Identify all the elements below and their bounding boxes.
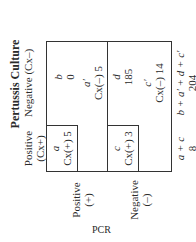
cell-c: c Cx(+) 3 — [110, 125, 134, 172]
cell-b-value: 0 — [64, 52, 76, 102]
row-header-negative-sub: (–) — [140, 172, 152, 228]
cell-a-prime-var: a′ — [80, 41, 92, 125]
cell-c-prime-var: c′ — [141, 41, 153, 125]
cell-d-value: 185 — [122, 52, 134, 102]
cell-a-value: Cx(+) 5 — [61, 125, 73, 172]
total-positive-formula: a + c — [174, 125, 186, 172]
cell-d: d 185 — [110, 52, 134, 102]
row-header-negative-label: Negative — [128, 172, 140, 228]
cell-c-prime-value: Cx(–) 14 — [153, 41, 165, 125]
total-positive-culture: a + c 8 — [174, 125, 196, 172]
column-header-positive-label: Positive — [22, 125, 34, 172]
row-header-positive-label: Positive — [70, 172, 82, 228]
column-header-negative: Negative (Cx–) — [22, 41, 34, 125]
cell-c-var: c — [110, 125, 122, 172]
row-header-positive-sub: (+) — [82, 172, 94, 228]
column-header-positive-sub: (Cx+) — [34, 125, 46, 172]
row-header-positive: Positive (+) — [70, 172, 94, 228]
cell-a-prime-value: Cx(–) 5 — [92, 41, 104, 125]
cell-b-var: b — [52, 52, 64, 102]
table-title: Pertussis Culture — [8, 14, 23, 154]
row-axis-label: PCR — [87, 224, 117, 235]
cell-a-prime: a′ Cx(–) 5 — [80, 41, 104, 125]
row-header-negative: Negative (–) — [128, 172, 152, 228]
cell-d-var: d — [110, 52, 122, 102]
cell-a-var: a — [49, 125, 61, 172]
cell-c-value: Cx(+) 3 — [122, 125, 134, 172]
cell-b: b 0 — [52, 52, 76, 102]
total-negative-culture: b + a′ + d + c′ 204 — [174, 41, 196, 125]
cell-a: a Cx(+) 5 — [49, 125, 73, 172]
total-positive-value: 8 — [186, 125, 196, 172]
column-header-negative-label: Negative (Cx–) — [22, 41, 34, 125]
total-negative-value: 204 — [186, 41, 196, 125]
total-negative-formula: b + a′ + d + c′ — [174, 41, 186, 125]
cell-c-prime: c′ Cx(–) 14 — [141, 41, 165, 125]
pertussis-pcr-table: Pertussis Culture Positive (Cx+) Negativ… — [0, 0, 196, 242]
column-header-positive: Positive (Cx+) — [22, 125, 46, 172]
